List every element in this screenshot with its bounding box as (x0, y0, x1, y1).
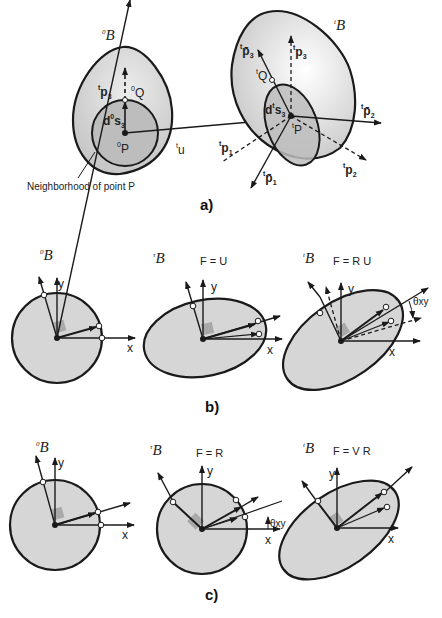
b3-body-label: tB (303, 251, 314, 266)
b2-axis-x: x (267, 344, 273, 356)
label-point-P0: 0P (117, 141, 129, 155)
body-current-label: tB (334, 18, 345, 33)
deformation-figure: 0B tB tp3 0Q d0s3 0P tu Neighborhood of … (0, 0, 442, 618)
c1-axis-y: y (58, 457, 64, 469)
label-p3-current: tp3 (293, 44, 307, 60)
b1-axis-x: x (127, 342, 133, 354)
c2-body-label: τB (150, 443, 162, 458)
neighborhood-note: Neighborhood of point P (27, 181, 135, 192)
b2-body-label: τB (153, 251, 165, 266)
caption-b: b) (205, 398, 219, 415)
label-p3-initial: tp3 (98, 84, 112, 100)
b2-equation: F = U (200, 255, 227, 267)
caption-a: a) (200, 196, 213, 213)
c2-theta: θxy (270, 518, 286, 529)
label-point-Q0: 0Q (131, 85, 144, 99)
label-displacement-u: tu (176, 142, 185, 156)
c2-equation: F = R (196, 447, 223, 459)
c3-equation: F = V R (333, 445, 371, 457)
label-ds0: d0s3 (103, 113, 125, 129)
caption-c: c) (205, 586, 218, 603)
label-dst: dts3 (265, 102, 285, 118)
b3-axis-y: y (348, 283, 354, 295)
panel-a (73, 11, 381, 188)
c2-axis-x: x (265, 534, 271, 546)
b1-axis-y: y (58, 278, 64, 290)
c3-axis-x: x (388, 533, 394, 545)
figure-graphics (0, 0, 442, 618)
c1-axis-x: x (122, 529, 128, 541)
b2-axis-y: y (211, 281, 217, 293)
label-point-Pt: tP (292, 122, 302, 136)
label-p1: tp1 (219, 140, 233, 156)
c3-body-label: tB (303, 441, 314, 456)
b3-axis-x: x (389, 346, 395, 358)
label-p2bar: tp̄2 (361, 103, 375, 119)
b3-theta: θxy (413, 296, 429, 307)
b3-equation: F = R U (333, 255, 371, 267)
c3-axis-y: y (329, 468, 335, 480)
label-p3bar: tp̄3 (240, 43, 254, 59)
panel-b (12, 0, 428, 410)
body-initial-label: 0B (102, 28, 115, 43)
label-point-Qt: tQ (256, 68, 267, 82)
label-p2: tp2 (343, 162, 357, 178)
c1-body-label: 0B (36, 440, 49, 455)
label-p1bar: tp̄1 (263, 170, 277, 186)
c2-axis-y: y (207, 465, 213, 477)
b1-body-label: 0B (40, 248, 53, 263)
